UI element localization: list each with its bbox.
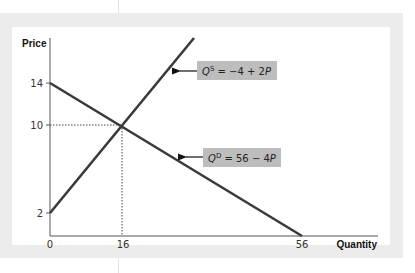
y-tick-label-10: 10 bbox=[30, 120, 43, 131]
y-tick-label-14: 14 bbox=[30, 78, 43, 89]
x-tick-label-16: 16 bbox=[117, 239, 130, 250]
y-axis-title: Price bbox=[22, 38, 47, 49]
supply-demand-chart: Price Quantity 14 10 2 0 16 56 QS = −4 +… bbox=[0, 0, 415, 273]
x-tick-label-0: 0 bbox=[47, 239, 53, 250]
x-tick-label-56: 56 bbox=[296, 239, 309, 250]
y-tick-label-2: 2 bbox=[37, 208, 43, 219]
x-axis-title: Quantity bbox=[336, 239, 377, 250]
